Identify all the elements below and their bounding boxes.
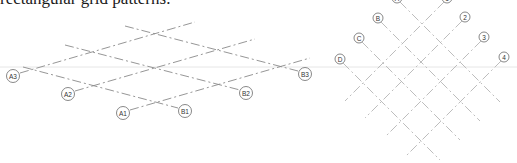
grid-bubble-b2: B2	[240, 87, 253, 100]
grid-bubble-3: 3	[479, 32, 489, 42]
svg-text:A: A	[395, 0, 400, 2]
left-bubbles: A3 A2 A1 B1 B2 B3	[7, 68, 312, 120]
svg-text:D: D	[338, 56, 343, 63]
svg-text:1: 1	[445, 0, 449, 2]
svg-text:2: 2	[463, 14, 467, 21]
grid-bubble-b: B	[373, 13, 383, 23]
grid-bubble-c: C	[354, 33, 364, 43]
svg-text:B1: B1	[181, 108, 189, 115]
grid-bubble-d: D	[335, 54, 345, 64]
svg-text:B: B	[376, 15, 380, 22]
svg-text:A3: A3	[9, 73, 17, 80]
grid-bubble-4: 4	[499, 52, 509, 62]
svg-text:A1: A1	[119, 110, 127, 117]
grid-bubble-a3: A3	[7, 70, 20, 83]
grid-diagrams: A3 A2 A1 B1 B2 B3 A B	[0, 0, 517, 163]
right-bubbles: A B C D 1 2 3 4	[335, 0, 509, 64]
svg-text:A2: A2	[64, 91, 72, 98]
svg-text:B3: B3	[301, 71, 309, 78]
grid-bubble-2: 2	[460, 12, 470, 22]
grid-bubble-b3: B3	[299, 68, 312, 81]
grid-bubble-a1: A1	[117, 107, 130, 120]
svg-text:C: C	[357, 35, 362, 42]
svg-text:3: 3	[482, 34, 486, 41]
svg-text:B2: B2	[242, 90, 250, 97]
right-grid-letter-lines	[343, 2, 500, 160]
svg-text:4: 4	[502, 54, 506, 61]
grid-bubble-b1: B1	[179, 105, 192, 118]
grid-bubble-a2: A2	[62, 88, 75, 101]
